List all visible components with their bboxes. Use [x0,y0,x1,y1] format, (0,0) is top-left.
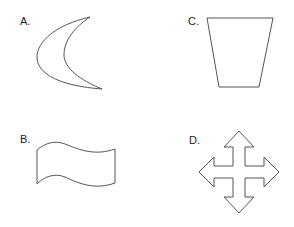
trapezoid-shape [207,18,273,87]
wavy-banner-shape [37,142,115,186]
four-way-arrow-shape [199,131,279,213]
shapes-canvas [0,0,294,227]
crescent-shape [37,17,102,89]
